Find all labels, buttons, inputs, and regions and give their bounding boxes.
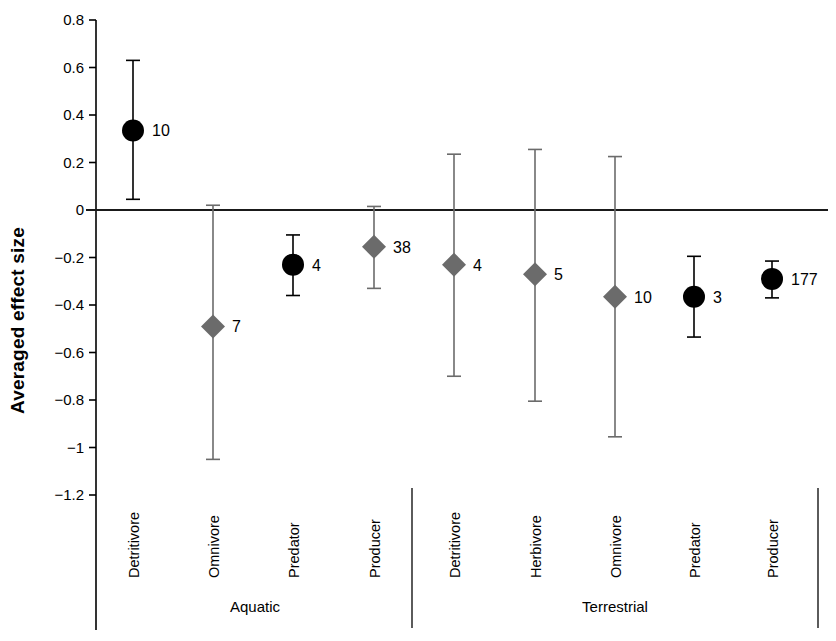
point-sample-size-label: 7 [232,318,241,335]
y-tick-label: 0.6 [63,59,84,76]
marker-diamond [603,285,627,309]
y-tick-label: 0 [76,201,84,218]
y-tick-label: −0.8 [54,391,84,408]
data-point-aquatic-detritivore: 10 [122,60,170,199]
y-tick-label: 0.2 [63,154,84,171]
point-sample-size-label: 4 [473,257,482,274]
plot-area: 0.80.60.40.20−0.2−0.4−0.6−0.8−1−1.210Det… [0,0,836,641]
marker-diamond [362,235,386,259]
data-point-terrestrial-detritivore: 4 [442,154,482,376]
point-sample-size-label: 10 [634,289,652,306]
marker-diamond [523,262,547,286]
point-sample-size-label: 177 [791,271,818,288]
data-point-aquatic-producer: 38 [362,206,411,288]
point-sample-size-label: 3 [713,289,722,306]
x-axis-category-label: Producer [367,519,383,578]
marker-circle [122,119,144,141]
data-point-terrestrial-herbivore: 5 [523,149,563,401]
y-tick-label: 0.8 [63,11,84,28]
marker-diamond [442,253,466,277]
x-axis-category-label: Predator [687,522,703,578]
x-axis-category-label: Omnivore [206,515,222,578]
x-axis-category-label: Omnivore [608,515,624,578]
point-sample-size-label: 4 [312,257,321,274]
point-sample-size-label: 10 [152,122,170,139]
marker-circle [761,268,783,290]
y-tick-label: −0.2 [54,249,84,266]
marker-circle [282,254,304,276]
data-point-aquatic-predator: 4 [282,235,321,296]
y-tick-label: −1.2 [54,486,84,503]
y-tick-label: −0.6 [54,344,84,361]
x-axis-category-label: Producer [765,519,781,578]
point-sample-size-label: 38 [393,239,411,256]
marker-circle [683,286,705,308]
y-tick-label: −0.4 [54,296,84,313]
x-axis-category-label: Predator [286,522,302,578]
data-point-aquatic-omnivore: 7 [201,205,241,459]
y-tick-label: 0.4 [63,106,84,123]
x-axis-category-label: Detritivore [126,512,142,578]
data-point-terrestrial-omnivore: 10 [603,157,652,437]
effect-size-chart: Averaged effect size 0.80.60.40.20−0.2−0… [0,0,836,641]
y-tick-label: −1 [67,439,84,456]
data-point-terrestrial-producer: 177 [761,261,818,298]
marker-diamond [201,314,225,338]
data-point-terrestrial-predator: 3 [683,256,722,337]
point-sample-size-label: 5 [554,266,563,283]
x-axis-category-label: Detritivore [447,512,463,578]
x-axis-category-label: Herbivore [528,515,544,578]
group-label-aquatic: Aquatic [230,598,281,615]
group-label-terrestrial: Terrestrial [582,598,648,615]
